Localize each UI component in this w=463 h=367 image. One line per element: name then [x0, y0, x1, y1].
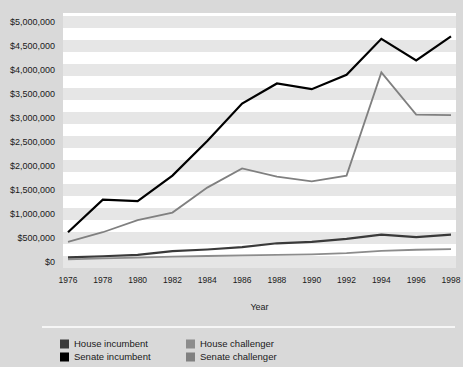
x-axis-tick-label: 1976: [59, 275, 78, 285]
x-axis-title: Year: [250, 302, 268, 312]
grid-band: [63, 112, 456, 124]
legend-label: Senate incumbent: [74, 351, 151, 362]
legend-swatch: [60, 353, 69, 362]
x-axis-tick-label: 1992: [337, 275, 356, 285]
grid-band: [63, 184, 456, 196]
y-axis-ticks: $0$500,000$1,000,000$1,500,000$2,000,000…: [10, 17, 55, 267]
y-axis-tick-label: $3,500,000: [10, 89, 55, 99]
grid-band: [63, 208, 456, 220]
x-axis-tick-label: 1996: [407, 275, 426, 285]
legend-label: House challenger: [200, 338, 274, 349]
legend-swatch: [186, 340, 195, 349]
grid-band: [63, 160, 456, 172]
x-axis-tick-label: 1988: [267, 275, 286, 285]
grid-band: [63, 64, 456, 76]
x-axis-tick-label: 1994: [372, 275, 391, 285]
y-axis-tick-label: $4,000,000: [10, 65, 55, 75]
y-axis-tick-label: $1,000,000: [10, 209, 55, 219]
y-axis-tick-label: $1,500,000: [10, 185, 55, 195]
x-axis-tick-label: 1980: [128, 275, 147, 285]
legend-label: Senate challenger: [200, 351, 277, 362]
grid-band: [63, 40, 456, 52]
x-axis-tick-label: 1986: [233, 275, 252, 285]
grid-band: [63, 136, 456, 148]
line-chart: $0$500,000$1,000,000$1,500,000$2,000,000…: [0, 0, 463, 367]
y-axis-tick-label: $3,000,000: [10, 113, 55, 123]
x-axis-tick-label: 1978: [93, 275, 112, 285]
chart-container: $0$500,000$1,000,000$1,500,000$2,000,000…: [0, 0, 463, 367]
legend-swatch: [60, 340, 69, 349]
x-axis-tick-label: 1984: [198, 275, 217, 285]
x-axis-tick-label: 1990: [302, 275, 321, 285]
legend-label: House incumbent: [74, 338, 148, 349]
x-axis-tick-label: 1982: [163, 275, 182, 285]
y-axis-tick-label: $2,500,000: [10, 137, 55, 147]
y-axis-tick-label: $5,000,000: [10, 17, 55, 27]
chart-legend: House incumbentSenate incumbentHouse cha…: [60, 338, 277, 362]
y-axis-tick-label: $4,500,000: [10, 41, 55, 51]
plot-area-wrapper: $0$500,000$1,000,000$1,500,000$2,000,000…: [0, 0, 463, 367]
grid-band: [63, 16, 456, 28]
y-axis-tick-label: $2,000,000: [10, 161, 55, 171]
y-axis-tick-label: $500,000: [17, 233, 55, 243]
y-axis-tick-label: $0: [45, 257, 55, 267]
grid-band: [63, 232, 456, 244]
x-axis-tick-label: 1998: [442, 275, 461, 285]
legend-swatch: [186, 353, 195, 362]
x-axis-ticks: 1976197819801982198419861988199019921994…: [59, 275, 461, 285]
